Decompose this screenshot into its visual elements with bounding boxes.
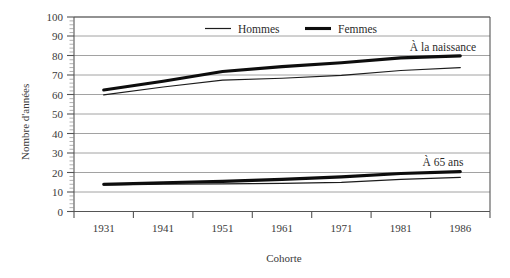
life-expectancy-line-chart: 100 90 80 70 60 50 40 30 20 10 0 Nombre …	[0, 0, 510, 278]
x-axis-ticks	[74, 212, 490, 219]
series-line-femmes-65-ans	[104, 172, 461, 185]
x-tick-label: 1961	[271, 222, 293, 234]
y-axis-title: Nombre d'années	[19, 84, 31, 160]
x-tick-label: 1971	[330, 222, 352, 234]
x-tick-label: 1941	[152, 222, 174, 234]
x-tick-label: 1986	[449, 222, 472, 234]
y-tick-label: 30	[52, 147, 64, 159]
y-tick-label: 0	[58, 206, 64, 218]
y-tick-label: 60	[52, 89, 64, 101]
legend-label-hommes: Hommes	[238, 23, 280, 35]
x-tick-labels: 1931 1941 1951 1961 1971 1981 1986	[93, 222, 472, 234]
series-line-femmes-la-naissance	[104, 56, 461, 90]
y-tick-label: 70	[52, 69, 64, 81]
x-axis-title: Cohorte	[266, 252, 302, 264]
y-tick-label: 80	[52, 50, 64, 62]
y-axis-major-ticks	[67, 17, 74, 212]
chart-figure: 100 90 80 70 60 50 40 30 20 10 0 Nombre …	[0, 0, 510, 278]
legend-label-femmes: Femmes	[338, 23, 377, 35]
y-tick-labels: 100 90 80 70 60 50 40 30 20 10 0	[47, 11, 64, 218]
y-tick-label: 90	[52, 30, 64, 42]
y-tick-label: 40	[52, 128, 64, 140]
chart-legend: Hommes Femmes	[205, 23, 377, 35]
x-tick-label: 1981	[390, 222, 412, 234]
x-tick-label: 1951	[212, 222, 234, 234]
y-tick-label: 20	[52, 167, 64, 179]
annotation-a-65-ans: À 65 ans	[423, 155, 464, 168]
y-tick-label: 50	[52, 108, 64, 120]
y-tick-label: 100	[47, 11, 64, 23]
x-tick-label: 1931	[93, 222, 115, 234]
annotation-a-la-naissance: À la naissance	[410, 40, 476, 53]
y-tick-label: 10	[52, 186, 64, 198]
